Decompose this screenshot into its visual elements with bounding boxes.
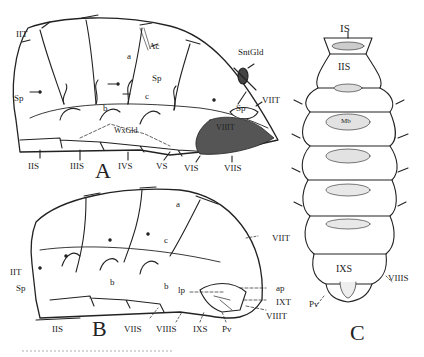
label-b-lp: lp <box>178 286 185 295</box>
label-a-IIT: IIT <box>16 30 28 39</box>
label-b-ap: ap <box>276 284 285 293</box>
label-b-b-right: b <box>164 282 169 291</box>
label-a-IIIS: IIIS <box>70 162 84 171</box>
label-a-Sp-right: Sp <box>236 104 246 113</box>
label-c-IS: IS <box>340 23 350 34</box>
label-a-Ac: Ac <box>149 42 160 51</box>
label-b-VIIIT: VIIIT <box>266 312 287 321</box>
label-b-VIIS: VIIS <box>124 325 142 334</box>
label-a-VIIS: VIIS <box>224 164 242 173</box>
label-b-Sp: Sp <box>16 284 26 293</box>
label-a-VIIIT: VIIIT <box>216 124 235 132</box>
label-b-IIS: IIS <box>52 325 63 334</box>
label-a-IIS: IIS <box>28 162 39 171</box>
label-a-VIIT: VIIT <box>262 96 280 105</box>
label-b-b-left: b <box>110 278 115 287</box>
label-b-VIIT: VIIT <box>272 234 290 243</box>
label-b-IXT: IXT <box>276 298 291 307</box>
label-c-Pv: Pv <box>309 300 319 309</box>
label-b-a: a <box>176 200 180 209</box>
label-c-VIIIS: VIIIS <box>388 274 409 283</box>
label-a-VS: VS <box>156 162 168 171</box>
panel-a-drawing <box>0 0 424 357</box>
cropped-caption <box>22 350 172 357</box>
label-a-Sp-mid: Sp <box>152 74 162 83</box>
label-b-IIT: IIT <box>10 268 22 277</box>
label-a-SntGld: SntGld <box>238 48 264 57</box>
label-b-IXS: IXS <box>193 325 208 334</box>
panel-b-letter: B <box>92 318 107 340</box>
label-c-Mb: Mb <box>341 118 351 125</box>
label-a-VIS: VIS <box>184 164 199 173</box>
label-a-WxGld: WxGld <box>114 127 138 135</box>
panel-c-letter: C <box>350 322 365 344</box>
label-a-IVS: IVS <box>118 162 133 171</box>
panel-a-letter: A <box>95 160 111 182</box>
label-a-a: a <box>127 52 131 61</box>
label-b-c: c <box>164 236 168 245</box>
label-a-Sp-left: Sp <box>14 94 24 103</box>
label-c-IXS: IXS <box>336 264 352 274</box>
label-b-Pv: Pv <box>222 325 232 334</box>
label-a-b: b <box>103 104 108 113</box>
label-b-VIIIS: VIIIS <box>156 325 177 334</box>
label-a-c: c <box>145 92 149 101</box>
label-c-IIS: IIS <box>338 62 350 72</box>
